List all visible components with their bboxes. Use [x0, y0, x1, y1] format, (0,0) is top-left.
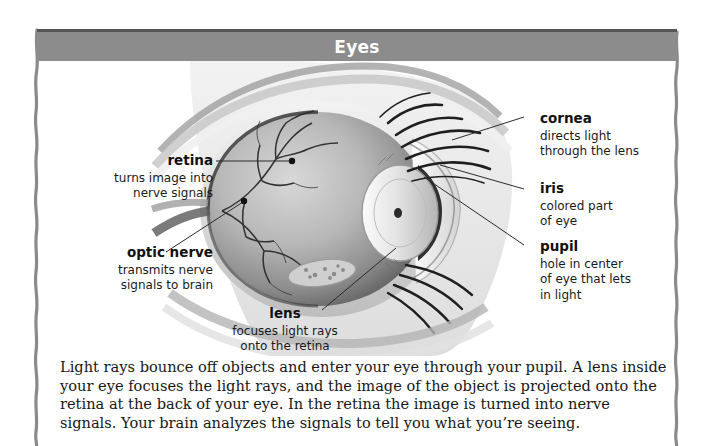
callout-retina-desc-line-1: turns image into — [43, 171, 213, 187]
callout-cornea-desc-line-2: through the lens — [540, 144, 690, 160]
callout-optic-nerve-title: optic nerve — [33, 244, 213, 262]
callout-pupil-desc-line-3: in light — [540, 288, 690, 304]
body-paragraph-block: Light rays bounce off objects and enter … — [60, 358, 667, 433]
section-banner: Eyes — [37, 29, 677, 61]
callout-iris-desc-line-1: colored part — [540, 199, 690, 215]
callout-optic-nerve: optic nerve transmits nerve signals to b… — [33, 244, 213, 294]
callout-cornea-desc-line-1: directs light — [540, 129, 690, 145]
callout-lens-desc-line-2: onto the retina — [200, 339, 370, 355]
callout-pupil-desc-line-2: of eye that lets — [540, 272, 690, 288]
page-title: Eyes — [37, 37, 677, 57]
callout-retina-desc-line-2: nerve signals — [43, 186, 213, 202]
body-paragraph: Light rays bounce off objects and enter … — [60, 358, 667, 433]
callout-iris-desc-line-2: of eye — [540, 214, 690, 230]
callout-lens-desc-line-1: focuses light rays — [200, 324, 370, 340]
callout-optic-nerve-desc-line-1: transmits nerve — [33, 263, 213, 279]
callout-cornea-title: cornea — [540, 110, 690, 128]
callout-lens: lens focuses light rays onto the retina — [200, 305, 370, 355]
callout-pupil: pupil hole in center of eye that lets in… — [540, 238, 690, 303]
page-root: Eyes — [0, 0, 712, 446]
callout-pupil-title: pupil — [540, 238, 690, 256]
callout-retina: retina turns image into nerve signals — [43, 152, 213, 202]
callout-retina-title: retina — [43, 152, 213, 170]
callout-optic-nerve-desc-line-2: signals to brain — [33, 278, 213, 294]
callout-pupil-desc-line-1: hole in center — [540, 257, 690, 273]
callout-iris-title: iris — [540, 180, 690, 198]
callout-lens-title: lens — [200, 305, 370, 323]
callout-cornea: cornea directs light through the lens — [540, 110, 690, 160]
callout-iris: iris colored part of eye — [540, 180, 690, 230]
